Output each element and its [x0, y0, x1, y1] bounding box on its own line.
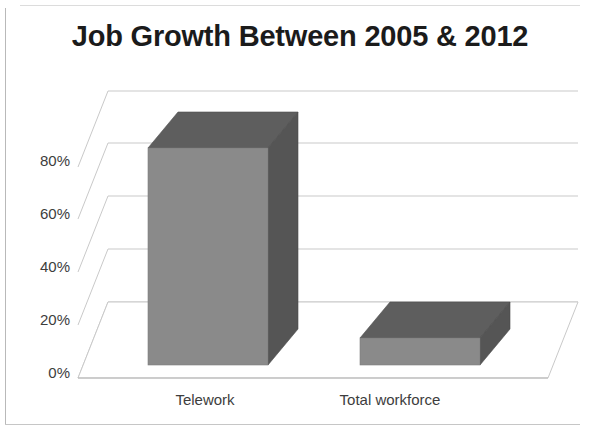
y-axis-label-80: 80% [12, 152, 70, 169]
y-axis-label-20: 20% [12, 311, 70, 328]
y-axis-label-0: 0% [12, 364, 70, 381]
x-axis-label-total-workforce: Total workforce [290, 391, 490, 408]
bar-total-workforce [360, 302, 510, 365]
bar-telework [148, 112, 298, 365]
x-axis-label-telework: Telework [115, 391, 295, 408]
chart-svg [0, 0, 592, 432]
y-axis-label-40: 40% [12, 258, 70, 275]
chart-plot-area [0, 0, 592, 432]
y-axis-label-60: 60% [12, 205, 70, 222]
chart-screenshot: Job Growth Between 2005 & 2012 [0, 0, 592, 432]
